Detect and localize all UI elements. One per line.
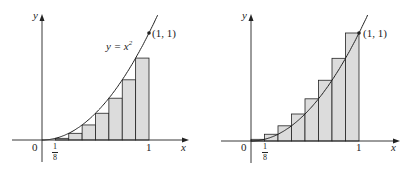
left-rectangle (109, 98, 122, 140)
left-rectangle (122, 80, 135, 140)
right-frac-den: 8 (263, 154, 267, 162)
left-tick-one: 1 (146, 142, 152, 153)
left-point-1-1 (147, 31, 151, 35)
right-rectangle (346, 33, 360, 141)
right-tick-one: 1 (356, 142, 362, 153)
right-rectangle (332, 58, 346, 141)
right-frac-num: 1 (263, 143, 267, 151)
left-y-axis-arrow-icon (40, 14, 45, 21)
left-frac-den: 8 (53, 154, 57, 162)
left-origin-label: 0 (32, 142, 38, 153)
right-x-axis-label: x (391, 142, 396, 153)
left-x-axis-label: x (181, 142, 186, 153)
left-point-label: (1, 1) (152, 28, 176, 39)
left-rectangle (82, 125, 95, 140)
right-point-label: (1, 1) (363, 28, 387, 39)
right-y-axis-arrow-icon (249, 14, 254, 21)
curve-label: y = x2 (106, 40, 132, 52)
right-point-1-1 (357, 31, 361, 35)
left-rectangle (69, 133, 82, 140)
right-y-axis-label: y (242, 10, 247, 21)
left-frac-num: 1 (53, 143, 57, 151)
right-origin-label: 0 (241, 142, 247, 153)
left-y-axis-label: y (33, 10, 38, 21)
right-rectangle (305, 99, 319, 141)
right-rectangle (292, 114, 306, 141)
riemann-sum-figure (0, 0, 404, 175)
left-rectangle (96, 113, 109, 140)
left-rectangle (136, 58, 149, 140)
